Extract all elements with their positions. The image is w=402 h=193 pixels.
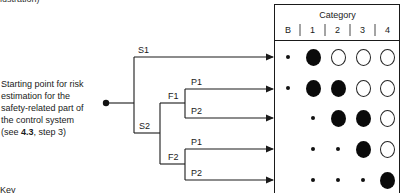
branch-label-f2-p1: P1 bbox=[191, 137, 202, 148]
matrix-cell bbox=[377, 139, 397, 159]
small-dot-icon bbox=[286, 86, 290, 90]
matrix-cell bbox=[377, 170, 397, 190]
small-dot-icon bbox=[336, 147, 340, 151]
matrix-cell bbox=[303, 139, 323, 159]
matrix-cell bbox=[353, 108, 373, 128]
open-circle-icon bbox=[356, 80, 371, 97]
matrix-cell bbox=[303, 170, 323, 190]
branch-label-s1: S1 bbox=[138, 45, 149, 56]
open-circle-icon bbox=[380, 110, 395, 127]
matrix-cell bbox=[328, 170, 348, 190]
matrix-cell bbox=[303, 47, 323, 67]
small-dot-icon bbox=[311, 147, 315, 151]
small-dot-icon bbox=[286, 55, 290, 59]
matrix-cell bbox=[303, 78, 323, 98]
filled-circle-icon bbox=[380, 172, 395, 189]
matrix-cell bbox=[353, 170, 373, 190]
branch-label-s2: S2 bbox=[139, 121, 150, 132]
matrix-cell bbox=[328, 78, 348, 98]
matrix-cell bbox=[377, 47, 397, 67]
filled-circle-icon bbox=[356, 110, 371, 127]
column-header-b: B bbox=[276, 25, 300, 35]
matrix-cell bbox=[353, 78, 373, 98]
matrix-cell bbox=[303, 108, 323, 128]
branch-label-f1: F1 bbox=[168, 91, 179, 102]
filled-circle-icon bbox=[331, 80, 346, 97]
matrix-cell bbox=[377, 108, 397, 128]
filled-circle-icon bbox=[356, 141, 371, 158]
column-header-3: 3 bbox=[350, 25, 375, 35]
column-header-4: 4 bbox=[375, 25, 400, 35]
small-dot-icon bbox=[336, 178, 340, 182]
key-heading: Key bbox=[0, 185, 16, 193]
open-circle-icon bbox=[331, 49, 346, 66]
matrix-cell bbox=[328, 47, 348, 67]
category-header: Category bbox=[275, 10, 400, 20]
matrix-cell bbox=[278, 78, 298, 98]
open-circle-icon bbox=[380, 141, 395, 158]
matrix-cell bbox=[377, 78, 397, 98]
matrix-cell bbox=[278, 47, 298, 67]
column-header-1: 1 bbox=[300, 25, 325, 35]
matrix-cell bbox=[353, 47, 373, 67]
small-dot-icon bbox=[361, 178, 365, 182]
open-circle-icon bbox=[380, 80, 395, 97]
column-header-2: 2 bbox=[325, 25, 350, 35]
matrix-cell bbox=[328, 139, 348, 159]
small-dot-icon bbox=[311, 116, 315, 120]
small-dot-icon bbox=[311, 178, 315, 182]
matrix-cell bbox=[328, 108, 348, 128]
filled-circle-icon bbox=[331, 110, 346, 127]
matrix-cell bbox=[353, 139, 373, 159]
branch-label-f2-p2: P2 bbox=[191, 168, 202, 179]
open-circle-icon bbox=[356, 49, 371, 66]
branch-label-f1-p1: P1 bbox=[191, 77, 202, 88]
filled-circle-icon bbox=[306, 80, 321, 97]
branch-label-f1-p2: P2 bbox=[191, 106, 202, 117]
filled-circle-icon bbox=[306, 49, 321, 66]
open-circle-icon bbox=[380, 49, 395, 66]
branch-label-f2: F2 bbox=[168, 152, 179, 163]
